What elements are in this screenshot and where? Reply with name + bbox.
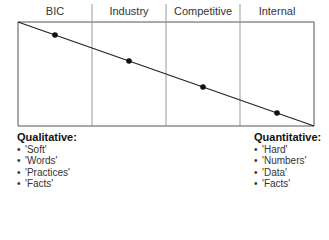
quantitative-title: Quantitative: [254, 132, 321, 144]
qualitative-title: Qualitative: [17, 132, 77, 144]
quantitative-legend: Quantitative: 'Hard' 'Numbers' 'Data' 'F… [254, 132, 321, 190]
quantitative-item: 'Hard' [254, 144, 321, 156]
qualitative-item: 'Practices' [17, 167, 77, 179]
quantitative-item: 'Data' [254, 167, 321, 179]
qualitative-item: 'Facts' [17, 178, 77, 190]
quantitative-item: 'Numbers' [254, 155, 321, 167]
qualitative-legend: Qualitative: 'Soft' 'Words' 'Practices' … [17, 132, 77, 190]
dot-competitive [200, 84, 206, 90]
dot-bic [52, 32, 58, 38]
dot-industry [126, 58, 132, 64]
quantitative-item: 'Facts' [254, 178, 321, 190]
qualitative-item: 'Words' [17, 155, 77, 167]
qualitative-list: 'Soft' 'Words' 'Practices' 'Facts' [17, 144, 77, 190]
qualitative-item: 'Soft' [17, 144, 77, 156]
quantitative-list: 'Hard' 'Numbers' 'Data' 'Facts' [254, 144, 321, 190]
dot-internal [274, 110, 280, 116]
